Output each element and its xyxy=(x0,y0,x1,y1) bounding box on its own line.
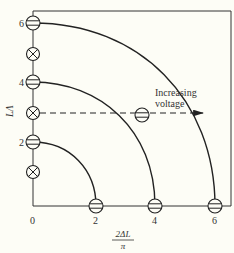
arc-6 xyxy=(33,23,215,206)
y-tick-2: 2 xyxy=(19,137,24,148)
cross-circle-icon xyxy=(27,48,40,61)
annotation-line1: Increasing xyxy=(155,87,197,98)
minus-circle-icon xyxy=(148,199,162,213)
x-tick-4: 4 xyxy=(152,215,157,226)
minus-circle-icon xyxy=(89,199,103,213)
annotation-line2: voltage xyxy=(155,98,185,109)
plot-frame xyxy=(33,11,231,206)
y-tick-4: 4 xyxy=(19,77,24,88)
minus-circle-icon xyxy=(135,108,149,122)
y-axis-label: LΛ xyxy=(4,105,15,118)
cross-circle-icon xyxy=(27,166,40,179)
x-tick-0: 0 xyxy=(30,215,35,226)
minus-circle-icon xyxy=(26,75,40,89)
x-axis-label-denominator: π xyxy=(121,241,126,251)
minus-circle-icon xyxy=(26,135,40,149)
x-axis-label-numerator: 2ΔL xyxy=(116,229,131,239)
mode-diagram: Increasing voltage 6 4 2 LΛ 0 2 4 6 2ΔL … xyxy=(0,0,234,253)
arc-2 xyxy=(33,142,96,206)
mode-arcs xyxy=(33,23,215,206)
cross-circle-icon xyxy=(27,107,40,120)
x-tick-2: 2 xyxy=(93,215,98,226)
y-tick-6: 6 xyxy=(19,18,24,29)
minus-circle-icon xyxy=(208,199,222,213)
x-tick-6: 6 xyxy=(212,215,217,226)
minus-circle-icon xyxy=(26,16,40,30)
